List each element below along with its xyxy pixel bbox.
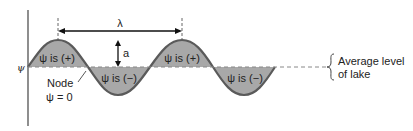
arrowhead-down-icon (115, 61, 121, 67)
axis-label: ψ (17, 62, 25, 73)
region-label-2: ψ is (−) (101, 72, 137, 84)
arrowhead-right-icon (175, 28, 182, 34)
node-label: Node (47, 77, 73, 89)
arrowhead-left-icon (58, 28, 65, 34)
amplitude-label: a (123, 47, 130, 59)
region-label-3: ψ is (+) (164, 52, 200, 64)
wave-diagram: λ a ψ ψ is (+) ψ is (−) ψ is (+) ψ is (−… (0, 0, 413, 131)
region-label-1: ψ is (+) (39, 52, 75, 64)
baseline-label-line1: Average level (338, 55, 404, 67)
baseline-label-line2: of lake (338, 68, 370, 80)
node-value: ψ = 0 (46, 91, 73, 103)
arrowhead-up-icon (115, 40, 121, 46)
region-label-4: ψ is (−) (227, 72, 263, 84)
wavelength-label: λ (117, 17, 123, 29)
brace-icon (327, 54, 334, 80)
node-leader-line (78, 71, 86, 82)
